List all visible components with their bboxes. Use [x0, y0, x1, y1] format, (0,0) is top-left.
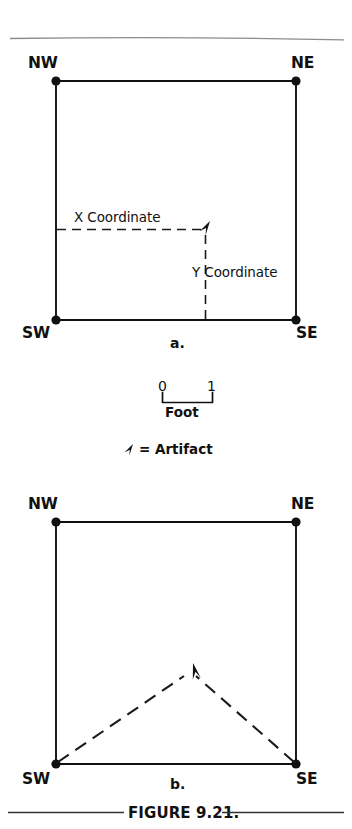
- panel-b-letter: b.: [170, 776, 185, 792]
- panel-a: NW NE SW SE X Coordinate Y Coordinate a.: [22, 54, 317, 351]
- panel-a-label-se: SE: [296, 324, 317, 342]
- figure-caption: FIGURE 9.21.: [8, 804, 344, 822]
- legend-label: = Artifact: [139, 441, 213, 457]
- legend-artifact-arrow-icon: [123, 444, 135, 457]
- panel-b-label-se: SE: [296, 770, 317, 788]
- panel-a-corner-dot-nw: [51, 76, 60, 85]
- triangulation-line-sw: [58, 676, 184, 762]
- panel-b-corner-dot-ne: [291, 517, 300, 526]
- scale-bar-min-label: 0: [158, 378, 167, 394]
- panel-b-corner-dot-nw: [51, 517, 60, 526]
- y-coordinate-label: Y Coordinate: [191, 264, 277, 280]
- panel-a-corner-dot-sw: [51, 315, 60, 324]
- panel-b-label-ne: NE: [291, 495, 314, 513]
- legend: = Artifact: [123, 441, 213, 457]
- figure-container: NW NE SW SE X Coordinate Y Coordinate a.: [0, 0, 352, 829]
- panel-a-letter: a.: [170, 335, 185, 351]
- figure-9-21-illustration: NW NE SW SE X Coordinate Y Coordinate a.: [0, 0, 352, 829]
- scale-bar-max-label: 1: [207, 378, 216, 394]
- panel-a-corner-dot-se: [291, 315, 300, 324]
- panel-a-unit-square: [56, 81, 296, 320]
- panel-a-label-ne: NE: [291, 54, 314, 72]
- panel-a-label-nw: NW: [28, 54, 58, 72]
- panel-b-label-nw: NW: [28, 495, 58, 513]
- panel-b-artifact-icon: [186, 663, 206, 683]
- x-coordinate-label: X Coordinate: [74, 209, 160, 225]
- panel-b-unit-square: [56, 522, 296, 764]
- panel-b-label-sw: SW: [22, 770, 50, 788]
- panel-a-label-sw: SW: [22, 324, 50, 342]
- triangulation-line-se: [196, 676, 294, 762]
- top-page-rule: [10, 38, 344, 40]
- panel-a-corner-dot-ne: [291, 76, 300, 85]
- panel-b: NW NE SW SE b.: [22, 495, 317, 792]
- scale-bar-bracket: [163, 393, 213, 403]
- scale-bar-unit-label: Foot: [165, 404, 199, 420]
- scale-bar: 0 1 Foot: [158, 378, 216, 420]
